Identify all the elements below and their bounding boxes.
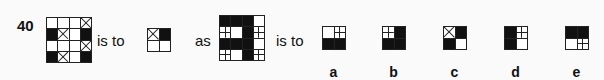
black-cell xyxy=(383,39,394,50)
black-cell xyxy=(395,27,406,38)
white-cell xyxy=(58,41,68,51)
quartered-cell xyxy=(220,27,230,37)
crossed-cell xyxy=(58,29,68,39)
option-c-label[interactable]: c xyxy=(443,64,466,80)
black-cell xyxy=(323,39,334,50)
option-a-label[interactable]: a xyxy=(322,64,345,80)
option-b-grid[interactable] xyxy=(382,26,406,50)
option-d-grid[interactable] xyxy=(504,26,528,50)
black-cell xyxy=(243,50,253,60)
quartered-cell xyxy=(335,27,346,38)
white-cell xyxy=(148,41,159,52)
black-cell xyxy=(505,27,516,38)
white-cell xyxy=(517,39,528,50)
white-cell xyxy=(70,29,80,39)
connector-as: as xyxy=(195,33,211,49)
white-cell xyxy=(254,16,264,26)
black-cell xyxy=(335,39,346,50)
black-cell xyxy=(578,27,589,38)
crossed-cell xyxy=(81,18,91,28)
black-cell xyxy=(444,39,455,50)
white-cell xyxy=(456,39,467,50)
black-cell xyxy=(81,52,91,62)
black-cell xyxy=(243,27,253,37)
source-grid-2 xyxy=(147,28,171,52)
quartered-cell xyxy=(517,27,528,38)
option-e-label[interactable]: e xyxy=(565,64,588,80)
black-cell xyxy=(456,27,467,38)
white-cell xyxy=(58,18,68,28)
source-grid-1 xyxy=(46,17,92,63)
option-e-grid[interactable] xyxy=(565,26,589,50)
option-d-label[interactable]: d xyxy=(504,64,527,80)
option-b-label[interactable]: b xyxy=(382,64,405,80)
black-cell xyxy=(220,16,230,26)
source-grid-3 xyxy=(219,15,265,61)
option-c-grid[interactable] xyxy=(443,26,467,50)
quartered-cell xyxy=(220,50,230,60)
black-cell xyxy=(47,29,57,39)
black-cell xyxy=(47,52,57,62)
white-cell xyxy=(70,18,80,28)
white-cell xyxy=(70,52,80,62)
white-cell xyxy=(47,18,57,28)
white-cell xyxy=(323,27,334,38)
crossed-cell xyxy=(58,52,68,62)
white-cell xyxy=(47,41,57,51)
crossed-cell xyxy=(148,29,159,40)
black-cell xyxy=(566,27,577,38)
connector-is-to-1: is to xyxy=(97,33,125,49)
quartered-cell xyxy=(254,27,264,37)
black-cell xyxy=(231,16,241,26)
black-cell xyxy=(160,29,171,40)
quartered-cell xyxy=(578,39,589,50)
black-cell xyxy=(505,39,516,50)
black-cell xyxy=(231,39,241,49)
question-number: 40 xyxy=(17,17,34,34)
connector-is-to-2: is to xyxy=(276,33,304,49)
black-cell xyxy=(81,29,91,39)
black-cell xyxy=(243,39,253,49)
white-cell xyxy=(231,50,241,60)
crossed-cell xyxy=(81,41,91,51)
crossed-cell xyxy=(444,27,455,38)
white-cell xyxy=(566,39,577,50)
black-cell xyxy=(395,39,406,50)
black-cell xyxy=(243,16,253,26)
white-cell xyxy=(254,39,264,49)
quartered-cell xyxy=(254,50,264,60)
black-cell xyxy=(220,39,230,49)
white-cell xyxy=(70,41,80,51)
white-cell xyxy=(160,41,171,52)
quartered-cell xyxy=(383,27,394,38)
white-cell xyxy=(231,27,241,37)
option-a-grid[interactable] xyxy=(322,26,346,50)
